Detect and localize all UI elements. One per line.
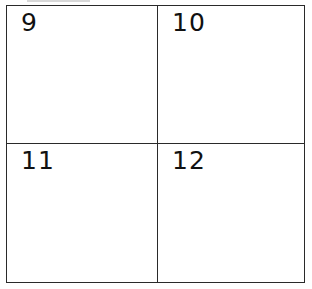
cell-number: 10 [172, 8, 206, 38]
cell-number: 11 [21, 146, 55, 176]
cell-number: 12 [172, 146, 206, 176]
grid-cell-11: 11 [7, 144, 158, 282]
top-edge-artifact [27, 0, 90, 2]
grid-cell-9: 9 [7, 6, 158, 144]
grid-cell-10: 10 [158, 6, 304, 144]
number-grid: 9 10 11 12 [6, 5, 305, 283]
cell-number: 9 [21, 8, 38, 38]
grid-cell-12: 12 [158, 144, 304, 282]
